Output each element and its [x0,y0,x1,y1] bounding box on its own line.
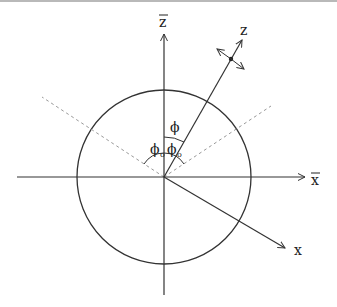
phi0-right-label: ϕ [167,141,177,157]
phi0-right-subscript: o [177,150,182,159]
phi0-left-subscript: o [160,150,165,159]
dashed-boundary-left [42,97,164,177]
x-label: x [294,242,302,258]
phi0-left-label: ϕ [150,141,160,157]
polarization-arrow-upleft [217,49,231,59]
phi-label: ϕ [170,119,180,135]
polarization-arrow-downright [231,59,244,69]
x-bar-label: x [311,172,319,188]
dashed-boundary-right [164,106,271,177]
z-label: z [240,22,247,38]
coordinate-diagram: z x z x ϕ ϕ o ϕ o [0,0,337,307]
x-axis [164,177,285,248]
z-bar-label: z [159,14,166,30]
